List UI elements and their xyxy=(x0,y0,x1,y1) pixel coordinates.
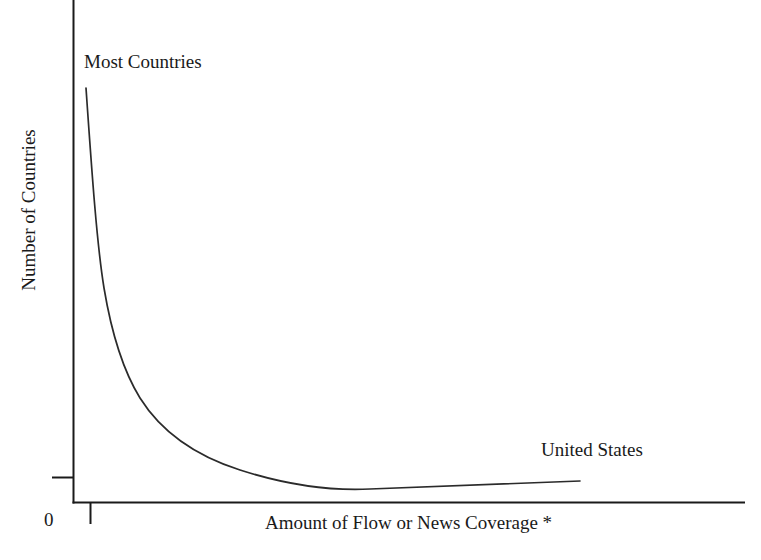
y-axis-label-wrapper: Number of Countries xyxy=(0,110,56,310)
origin-label: 0 xyxy=(44,510,54,529)
chart-page: Most Countries United States Amount of F… xyxy=(0,0,761,560)
y-axis-label: Number of Countries xyxy=(19,129,38,290)
chart-figure xyxy=(0,0,761,560)
x-axis-label: Amount of Flow or News Coverage * xyxy=(265,513,552,532)
decay-curve xyxy=(86,88,580,489)
annotation-united-states: United States xyxy=(541,440,643,459)
annotation-most-countries: Most Countries xyxy=(84,52,202,71)
